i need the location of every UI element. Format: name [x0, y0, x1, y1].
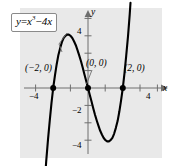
point-marker-x-intercept-left — [50, 85, 56, 91]
y-tick-label-negative-2: −2 — [72, 106, 82, 115]
point-marker-origin — [85, 85, 91, 91]
point-label-x-intercept-right: (2, 0) — [124, 64, 145, 74]
y-tick-label-negative-4: −4 — [72, 141, 82, 150]
equation-term: 4x — [42, 15, 52, 27]
graph-figure: y=x3−4x (−2, 0) (0, 0) (2, 0) x y −4 4 4… — [0, 0, 174, 166]
point-label-x-intercept-left: (−2, 0) — [25, 64, 52, 74]
y-tick-label-positive-4: 4 — [77, 27, 82, 36]
point-marker-x-intercept-right — [120, 85, 126, 91]
point-label-origin: (0, 0) — [86, 59, 107, 69]
x-tick-label-positive-4: 4 — [146, 92, 151, 101]
equation-label-box: y=x3−4x — [11, 13, 57, 32]
origin-leader-line — [87, 70, 93, 84]
x-axis-label: x — [163, 84, 167, 94]
y-axis-label: y — [91, 8, 95, 18]
x-tick-label-negative-4: −4 — [29, 92, 39, 101]
